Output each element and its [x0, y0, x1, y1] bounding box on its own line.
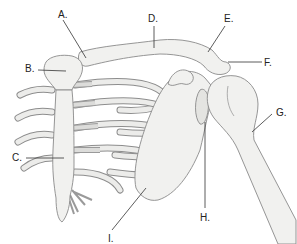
label-b: B. [25, 64, 34, 74]
label-f: F. [264, 58, 272, 68]
label-c: C. [12, 153, 22, 163]
label-e: E. [224, 14, 233, 24]
label-g: G. [276, 108, 287, 118]
label-d: D. [148, 14, 158, 24]
label-a: A. [58, 10, 67, 20]
label-h: H. [200, 213, 210, 223]
label-i: I. [108, 234, 114, 244]
shoulder-anatomy-diagram: A. B. C. D. E. F. G. H. I. [0, 0, 297, 244]
anatomy-illustration [0, 0, 297, 244]
humerus [207, 76, 296, 244]
scapula [135, 70, 215, 200]
